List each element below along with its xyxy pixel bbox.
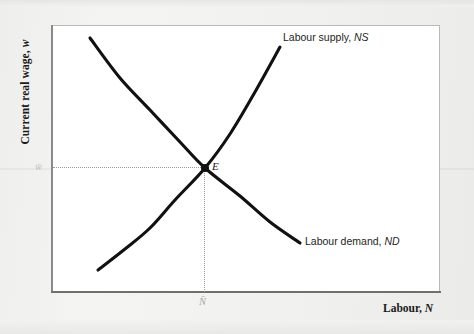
y-axis-line (51, 25, 53, 293)
labour-supply-label-code: NS (354, 31, 369, 43)
equilibrium-point-marker (201, 164, 209, 172)
page-edge-top (0, 0, 474, 7)
x-axis-title: Labour, N (383, 302, 433, 314)
equilibrium-point-label: E (212, 160, 219, 172)
x-axis-title-text: Labour, (383, 302, 425, 314)
labour-demand-label-text: Labour demand, (305, 235, 384, 247)
y-axis-title-text: Current real wage, (19, 47, 31, 144)
plot-panel (51, 25, 440, 292)
x-axis-line (51, 291, 441, 293)
labour-supply-label-text: Labour supply, (283, 31, 354, 43)
wage-axis-tick-label: w̄ (35, 161, 42, 172)
labour-demand-label: Labour demand, ND (305, 235, 400, 247)
page-edge-bottom (0, 320, 474, 334)
labour-axis-tick-label: N̄ (199, 296, 206, 307)
figure-container: E Labour supply, NS Labour demand, ND w̄… (0, 0, 474, 334)
y-axis-title-var: w (19, 39, 31, 47)
labour-supply-label: Labour supply, NS (283, 31, 369, 43)
y-axis-title: Current real wage, w (19, 17, 31, 167)
labour-demand-label-code: ND (384, 235, 399, 247)
wage-guide-line (53, 167, 203, 168)
labour-guide-line (204, 170, 205, 292)
x-axis-title-var: N (425, 302, 433, 314)
